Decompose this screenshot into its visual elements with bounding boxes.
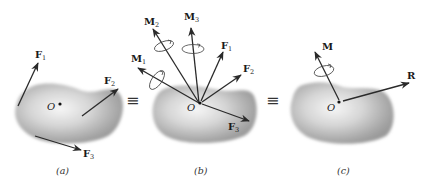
diagram-canvas: O F1 F2 F3 (a) ≡ M1 M2 M3 F1 F2 F3 O [0, 0, 426, 192]
panel-c: M R O (c) [291, 41, 416, 176]
force-label-f3-a: F3 [83, 148, 94, 161]
origin-point-b [198, 101, 201, 104]
force-label-f2-a: F2 [104, 75, 115, 88]
moment-label-m-c: M [322, 41, 333, 52]
origin-label-a: O [47, 101, 55, 112]
origin-point-a [58, 102, 61, 105]
panel-a: O F1 F2 F3 (a) [15, 49, 123, 176]
origin-label-b: O [187, 102, 195, 113]
origin-point-c [337, 100, 340, 103]
caption-c: (c) [337, 165, 350, 176]
moment-label-m3-b: M3 [184, 11, 199, 24]
equivalence-symbol-1: ≡ [126, 91, 139, 110]
rotation-icon-m1 [147, 68, 168, 92]
equivalence-symbol-2: ≡ [266, 91, 279, 110]
caption-b: (b) [194, 165, 208, 176]
force-label-f1-a: F1 [35, 49, 46, 62]
force-label-f2-b: F2 [243, 63, 254, 76]
moment-label-m2-b: M2 [144, 16, 159, 29]
panel-b: M1 M2 M3 F1 F2 F3 O (b) [131, 11, 257, 176]
moment-label-m1-b: M1 [131, 53, 146, 66]
origin-label-c: O [327, 102, 335, 113]
force-system-reduction-diagram: O F1 F2 F3 (a) ≡ M1 M2 M3 F1 F2 F3 O [0, 0, 426, 192]
caption-a: (a) [56, 165, 69, 176]
rotation-arrowhead-m1-icon [160, 71, 163, 75]
force-label-r-c: R [407, 70, 416, 81]
rigid-body-a [15, 84, 123, 144]
force-label-f1-b: F1 [221, 40, 232, 53]
